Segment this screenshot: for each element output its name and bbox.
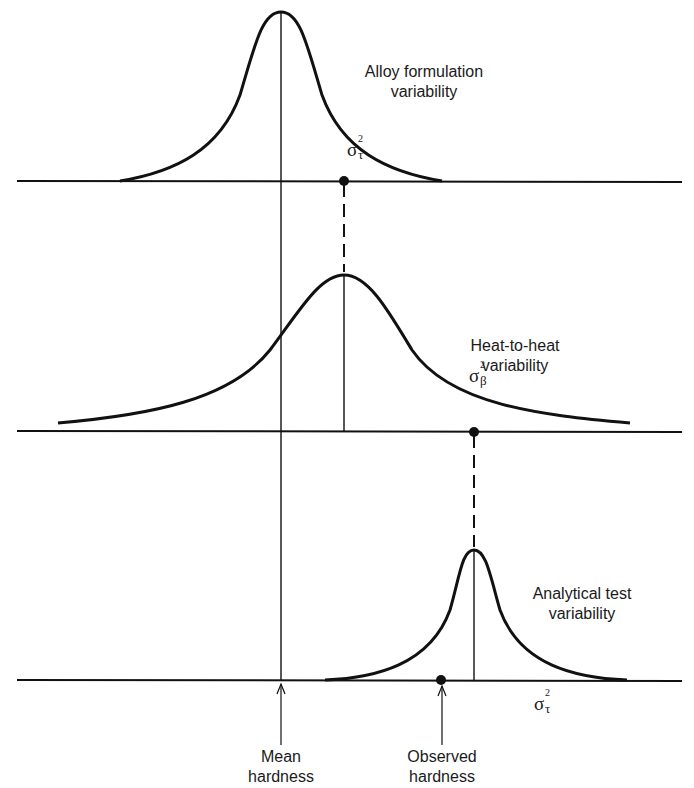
heat-label: Heat-to-heat variability (445, 336, 585, 376)
alloy-label-line2: variability (339, 82, 509, 102)
analytical-label: Analytical test variability (512, 584, 652, 624)
baseline-alloy (17, 181, 682, 182)
baseline-heat (17, 431, 682, 432)
heat-label-line1: Heat-to-heat (445, 336, 585, 356)
mean-arrow-icon (277, 684, 285, 745)
observed-arrow-icon (438, 686, 446, 745)
observed-hardness-label: Observed hardness (392, 747, 492, 787)
sample-point-alloy (339, 176, 349, 186)
heat-label-line2: variability (445, 356, 585, 376)
sigma-tau-analytical-text: σ 2 τ (534, 693, 544, 715)
analytical-label-line2: variability (512, 604, 652, 624)
alloy-label: Alloy formulation variability (339, 62, 509, 102)
sigma-tau-alloy: σ 2 τ (347, 139, 357, 161)
analytical-label-line1: Analytical test (512, 584, 652, 604)
alloy-label-line1: Alloy formulation (339, 62, 509, 82)
baseline-analytical (17, 680, 682, 681)
mean-hardness-label: Mean hardness (231, 747, 331, 787)
observed-point (436, 675, 446, 685)
sample-point-heat (469, 427, 479, 437)
variability-diagram (0, 0, 694, 788)
sigma-beta-heat: σ 2 β (469, 365, 479, 387)
